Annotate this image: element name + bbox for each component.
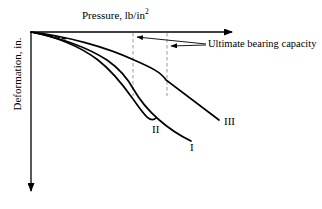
axis-lines bbox=[31, 32, 232, 191]
y-axis-title: Deformation, in. bbox=[12, 24, 23, 124]
curve-label-iii: III bbox=[224, 116, 235, 127]
x-axis-title-exponent: 2 bbox=[145, 7, 149, 16]
curve-label-i: I bbox=[190, 142, 194, 153]
leader-to-dashed-line-2 bbox=[171, 45, 206, 46]
leader-to-dashed-line-1 bbox=[137, 37, 206, 44]
x-axis-title: Pressure, lb/in2 bbox=[82, 10, 149, 21]
reference-lines bbox=[133, 33, 167, 96]
annotation-leaders bbox=[137, 37, 206, 46]
x-axis-title-text: Pressure, lb/in bbox=[82, 9, 145, 21]
curves bbox=[31, 32, 219, 141]
diagram-canvas bbox=[0, 0, 322, 209]
ultimate-bearing-capacity-label: Ultimate bearing capacity bbox=[208, 39, 316, 50]
curve-label-ii: II bbox=[152, 124, 159, 135]
bearing-capacity-diagram: Pressure, lb/in2 Deformation, in. Ultima… bbox=[0, 0, 322, 209]
curve-iii-dashed-initial-segment bbox=[36, 33, 66, 39]
